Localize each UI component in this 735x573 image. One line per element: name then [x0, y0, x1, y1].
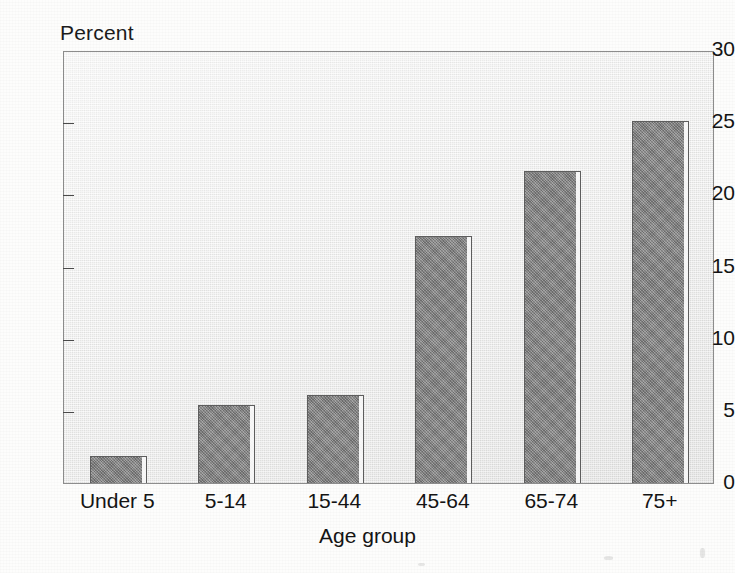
plot-area [63, 51, 714, 484]
chart-page: Percent 051015202530 Under 55-1415-4445-… [0, 0, 735, 573]
scan-artifact [604, 556, 613, 560]
y-tick-mark [63, 412, 74, 413]
scan-artifact [418, 563, 425, 566]
bar [415, 236, 472, 483]
y-tick-mark [63, 195, 74, 196]
bar [632, 121, 689, 483]
bar-series [64, 52, 713, 483]
y-tick-mark [63, 123, 74, 124]
x-axis-title: Age group [0, 524, 735, 548]
bar [198, 405, 255, 483]
bar [90, 456, 147, 483]
bar [524, 171, 581, 483]
y-tick-mark [63, 340, 74, 341]
x-tick-label: 75+ [590, 489, 730, 513]
y-axis-title: Percent [60, 21, 134, 45]
y-tick-mark [63, 268, 74, 269]
bar [307, 395, 364, 483]
scan-artifact [700, 548, 705, 558]
